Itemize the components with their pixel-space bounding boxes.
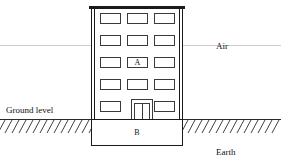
structure-label-a: A [135, 59, 141, 67]
window [154, 57, 175, 68]
window [100, 13, 121, 24]
window [100, 101, 121, 112]
air-label: Air [216, 41, 228, 51]
window [100, 35, 121, 46]
window [100, 57, 121, 68]
window-labeled-a: A [127, 57, 148, 68]
entrance-door-mullion [142, 104, 143, 119]
window [127, 35, 148, 46]
window [127, 79, 148, 90]
building-cross-section-diagram: A [0, 0, 281, 165]
window [127, 13, 148, 24]
earth-hatching-right [183, 120, 281, 133]
earth-label: Earth [216, 147, 236, 157]
window [154, 101, 175, 112]
window [154, 79, 175, 90]
earth-hatching-left [0, 120, 91, 133]
window [154, 13, 175, 24]
ground-level-label: Ground level [6, 105, 53, 115]
roof-slab [89, 6, 185, 9]
structure-label-b: B [134, 128, 139, 137]
window [100, 79, 121, 90]
basement-below-ground: B [91, 119, 183, 146]
window [154, 35, 175, 46]
